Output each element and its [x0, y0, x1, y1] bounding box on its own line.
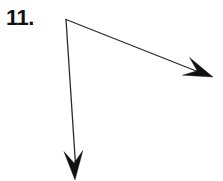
angle-drawing	[0, 0, 223, 181]
ray-right	[66, 20, 213, 78]
ray-down-arrowhead	[64, 151, 83, 180]
ray-right-line	[66, 20, 198, 72]
ray-down-line	[66, 20, 76, 165]
angle-diagram-figure: 11.	[0, 0, 223, 181]
ray-down	[64, 20, 83, 181]
